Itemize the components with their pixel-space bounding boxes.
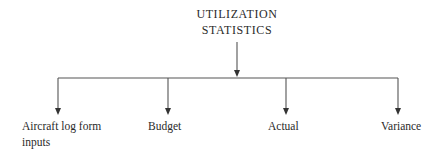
child-node-actual: Actual <box>268 118 299 134</box>
child-label-line1: Actual <box>268 118 299 134</box>
child-label-line1: Aircraft log form <box>22 118 101 134</box>
root-node-label: UTILIZATION STATISTICS <box>167 6 307 38</box>
child-arrow-budget <box>165 78 171 115</box>
child-node-variance: Variance <box>381 118 421 134</box>
child-label-line1: Variance <box>381 118 421 134</box>
utilization-statistics-tree-diagram: UTILIZATION STATISTICS Aircraft log form… <box>0 0 437 152</box>
child-arrow-actual <box>283 78 289 115</box>
child-label-line2: inputs <box>22 134 101 150</box>
child-arrow-aircraft-log <box>55 78 61 115</box>
child-node-budget: Budget <box>148 118 181 134</box>
root-label-line2: STATISTICS <box>167 22 307 38</box>
root-label-line1: UTILIZATION <box>167 6 307 22</box>
child-node-aircraft-log-form-inputs: Aircraft log form inputs <box>22 118 101 150</box>
child-arrow-variance <box>395 78 401 115</box>
root-down-arrow <box>234 42 240 77</box>
child-label-line1: Budget <box>148 118 181 134</box>
